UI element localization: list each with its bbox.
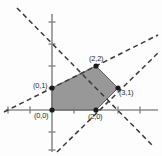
- vertex-dot-0-1: [49, 85, 54, 90]
- plot-canvas: [0, 0, 162, 156]
- linear-programming-figure: (0,1) (0,0) (2,2) (3,1) (2,0): [0, 0, 162, 156]
- vertex-label-0-0: (0,0): [34, 112, 48, 120]
- vertex-dot-2-2: [93, 63, 98, 68]
- vertex-label-2-0: (2,0): [88, 113, 102, 121]
- shaded-feasible-region: [52, 66, 118, 110]
- vertex-label-0-1: (0,1): [33, 82, 47, 90]
- vertex-dot-0-0: [49, 107, 54, 112]
- vertex-label-2-2: (2,2): [89, 55, 103, 63]
- vertex-label-3-1: (3,1): [119, 89, 133, 97]
